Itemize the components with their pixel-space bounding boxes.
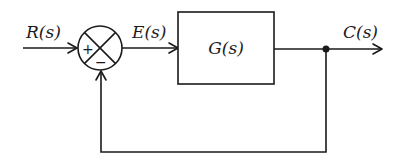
block-diagram: R(s) + − E(s) G(s) C(s) [0, 0, 403, 160]
input-label: R(s) [25, 22, 61, 42]
forward-block: G(s) [178, 12, 274, 84]
error-signal: E(s) [122, 22, 178, 53]
minus-sign: − [95, 54, 107, 70]
summing-junction: + − [78, 26, 122, 70]
input-signal: R(s) [23, 22, 77, 53]
error-label: E(s) [131, 22, 166, 42]
output-signal: C(s) [274, 22, 382, 54]
plus-sign: + [82, 41, 94, 57]
forward-block-label: G(s) [208, 38, 244, 58]
output-label: C(s) [343, 22, 378, 42]
